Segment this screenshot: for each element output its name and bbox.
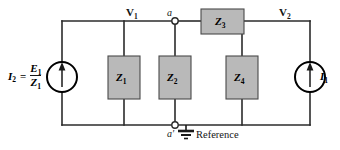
node-voltage-label-v1: V1 [126,7,138,18]
left-source-expression: I2 = E1 Z1 [8,63,41,88]
left-source-current-symbol: I2 [8,70,16,82]
right-source-current-label: I1 [320,70,328,82]
fraction-denominator: Z1 [31,76,41,88]
node-marker-a [172,18,178,24]
impedance-label-z4: Z4 [234,72,244,83]
impedance-label-z2: Z2 [167,72,177,83]
equals-sign: = [20,70,26,82]
impedance-label-z1: Z1 [116,72,126,83]
source-fraction: E1 Z1 [30,63,41,88]
current-source-left [47,62,77,92]
impedance-boxes [108,9,258,99]
ground-reference-label: Reference [196,130,239,141]
circuit-diagram: I2 = E1 Z1 I1 V1 V2 a a′ Z1 Z2 Z3 Z4 Ref… [0,0,340,150]
terminal-label-a: a [167,8,172,18]
terminal-label-a-prime: a′ [167,129,174,139]
ground-symbol [178,125,194,139]
node-voltage-label-v2: V2 [279,7,291,18]
fraction-numerator: E1 [30,63,41,75]
impedance-label-z3: Z3 [215,16,225,27]
